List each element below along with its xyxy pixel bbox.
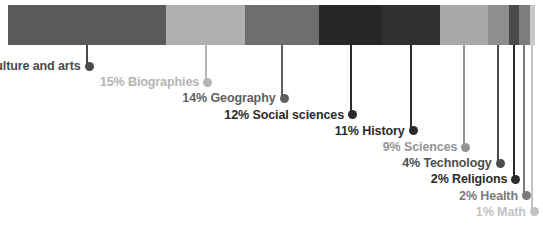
bar-segment-geography[interactable] bbox=[245, 5, 319, 45]
callout-geography[interactable]: 14% Geography bbox=[0, 90, 289, 106]
callout-dot-health bbox=[522, 191, 531, 200]
callout-dot-biographies bbox=[203, 78, 212, 87]
callout-label-sciences: 9% Sciences bbox=[383, 139, 458, 155]
callout-dot-social-sciences bbox=[348, 110, 357, 119]
callout-label-technology: 4% Technology bbox=[402, 155, 491, 171]
callout-dot-technology bbox=[496, 159, 505, 168]
callout-dot-religions bbox=[511, 175, 520, 184]
leader-line-health bbox=[523, 45, 525, 196]
bar-segment-math[interactable] bbox=[530, 5, 535, 45]
callout-dot-math bbox=[530, 207, 539, 216]
callout-dot-culture-and-arts bbox=[85, 62, 94, 71]
stacked-bar-infographic: 30% Culture and arts 15% Biographies 14%… bbox=[0, 0, 543, 234]
callout-label-history: 11% History bbox=[335, 123, 405, 139]
leader-line-social-sciences bbox=[350, 45, 352, 115]
callout-label-health: 2% Health bbox=[459, 188, 518, 204]
callout-dot-sciences bbox=[461, 143, 470, 152]
leader-line-technology bbox=[497, 45, 499, 163]
callout-sciences[interactable]: 9% Sciences bbox=[0, 139, 470, 155]
bar-segment-religions[interactable] bbox=[509, 5, 520, 45]
callout-dot-geography bbox=[280, 94, 289, 103]
callout-label-math: 1% Math bbox=[476, 204, 526, 220]
bar-segment-social-sciences[interactable] bbox=[319, 5, 382, 45]
bar-segment-culture-and-arts[interactable] bbox=[8, 5, 166, 45]
bar-segment-biographies[interactable] bbox=[166, 5, 245, 45]
bar-segment-technology[interactable] bbox=[488, 5, 509, 45]
stacked-bar bbox=[8, 5, 535, 45]
callout-social-sciences[interactable]: 12% Social sciences bbox=[0, 107, 357, 123]
callout-label-biographies: 15% Biographies bbox=[100, 74, 199, 90]
callout-label-culture-and-arts: 30% Culture and arts bbox=[0, 58, 81, 74]
callout-culture-and-arts[interactable]: 30% Culture and arts bbox=[0, 58, 94, 74]
callout-dot-history bbox=[409, 126, 418, 135]
bar-segment-history[interactable] bbox=[382, 5, 440, 45]
callout-technology[interactable]: 4% Technology bbox=[0, 155, 505, 171]
callout-biographies[interactable]: 15% Biographies bbox=[0, 74, 212, 90]
callout-health[interactable]: 2% Health bbox=[0, 188, 531, 204]
callout-label-social-sciences: 12% Social sciences bbox=[224, 107, 344, 123]
callout-religions[interactable]: 2% Religions bbox=[0, 171, 520, 187]
callout-label-geography: 14% Geography bbox=[182, 90, 275, 106]
bar-segment-sciences[interactable] bbox=[440, 5, 487, 45]
leader-line-sciences bbox=[463, 45, 465, 147]
bar-segment-health[interactable] bbox=[519, 5, 530, 45]
leader-line-religions bbox=[513, 45, 515, 179]
leader-line-history bbox=[410, 45, 412, 131]
callout-math[interactable]: 1% Math bbox=[0, 204, 539, 220]
callout-label-religions: 2% Religions bbox=[431, 171, 508, 187]
callout-history[interactable]: 11% History bbox=[0, 123, 418, 139]
leader-line-math bbox=[531, 45, 533, 212]
